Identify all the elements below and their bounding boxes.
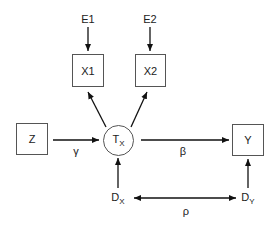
path-beta-label: β <box>173 146 193 157</box>
node-z: Z <box>16 123 48 155</box>
node-x2-label: X2 <box>144 65 157 77</box>
node-y: Y <box>232 124 264 156</box>
node-x1: X1 <box>72 54 104 87</box>
node-tx-label: TX <box>112 133 124 148</box>
node-x2: X2 <box>135 54 166 87</box>
node-tx: TX <box>103 125 134 156</box>
error-e1-label: E1 <box>78 14 98 25</box>
path-gamma-label: γ <box>66 146 86 157</box>
node-y-label: Y <box>244 134 251 146</box>
node-z-label: Z <box>29 133 36 145</box>
disturbance-dx-label: DX <box>106 192 130 206</box>
error-e2-label: E2 <box>140 14 160 25</box>
disturbance-dy-label: DY <box>236 192 260 206</box>
path-rho-label: ρ <box>176 206 196 217</box>
node-x1-label: X1 <box>81 65 94 77</box>
